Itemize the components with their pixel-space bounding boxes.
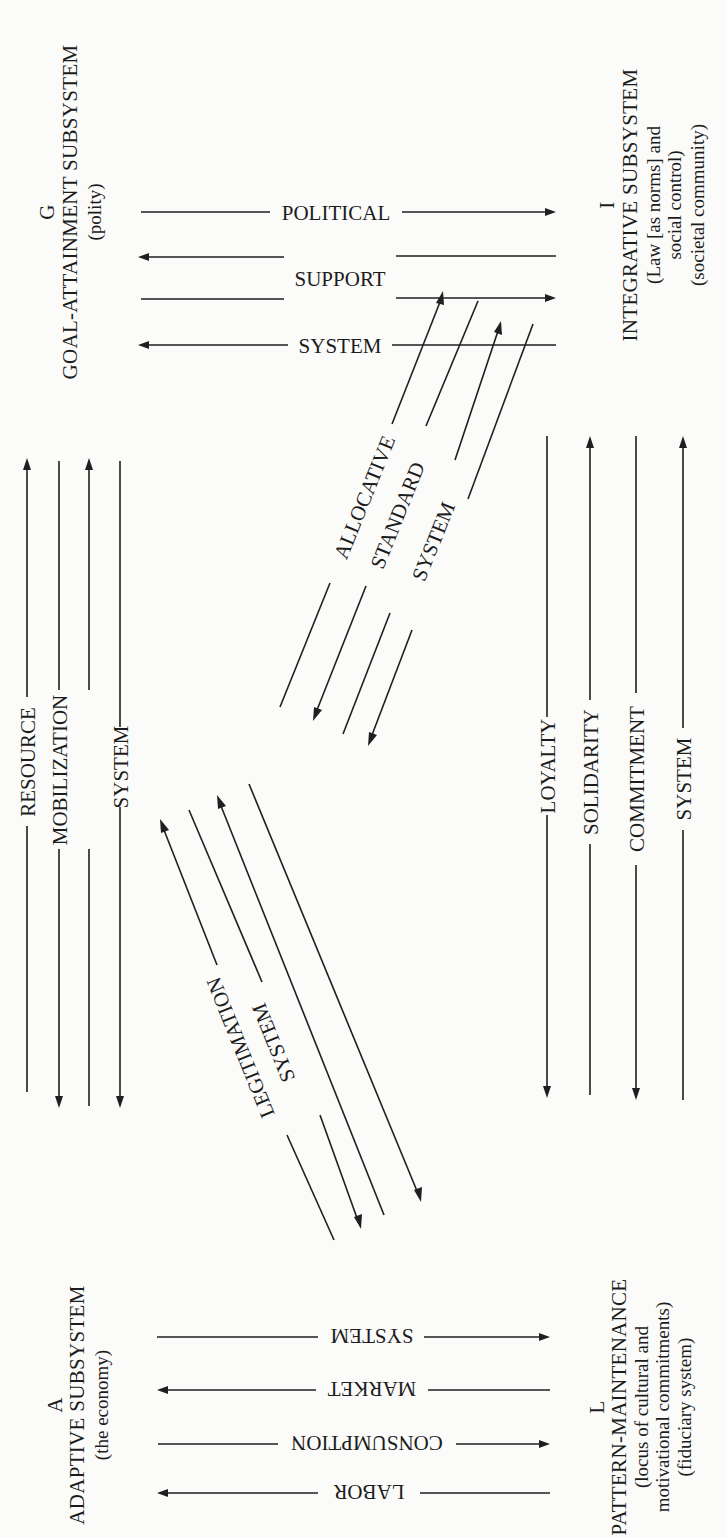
l-title: PATTERN-MAINTENANCE: [607, 1279, 631, 1536]
arrowhead-left-icon: [157, 1489, 168, 1497]
arrowhead-up-icon: [679, 436, 687, 448]
sol-system-label: SYSTEM: [672, 737, 696, 820]
arrowhead-down-left-icon: [313, 707, 322, 721]
arrowhead-up-left-icon: [217, 795, 226, 809]
arrowhead-right-icon: [545, 294, 556, 302]
arrowhead-left-icon: [157, 1386, 168, 1394]
i-line-2: social control): [664, 150, 686, 259]
interchange-line: [164, 830, 217, 965]
interchange-line: [320, 1115, 357, 1218]
l-line-3: (fiduciary system): [674, 1338, 696, 1477]
consumption-label: CONSUMPTION: [291, 1431, 443, 1455]
interchange-line: [343, 613, 390, 734]
arrowhead-right-icon: [545, 208, 556, 216]
legitimation-interchange: LEGITIMATION SYSTEM: [160, 784, 422, 1240]
support-label: SUPPORT: [295, 267, 386, 291]
arrowhead-up-left-icon: [160, 819, 169, 833]
interchange-line: [317, 586, 366, 710]
g-subtitle: (polity): [84, 184, 106, 241]
market-label: MARKET: [327, 1377, 416, 1401]
arrowhead-up-icon: [85, 458, 93, 470]
arrowhead-up-icon: [23, 458, 31, 470]
i-line-3: (societal community): [687, 124, 709, 286]
diagram-canvas: G GOAL-ATTAINMENT SUBSYSTEM (polity) I I…: [0, 0, 726, 1538]
market-interchange: SYSTEM MARKET CONSUMPTION LABOR: [157, 1324, 550, 1504]
interchange-line: [287, 1135, 334, 1240]
a-title: ADAPTIVE SUBSYSTEM: [65, 1285, 89, 1524]
arrowhead-left-icon: [138, 253, 149, 261]
a-subtitle: (the economy): [91, 1350, 113, 1460]
l-letter: L: [585, 1400, 609, 1413]
arrowhead-right-icon: [539, 1333, 550, 1341]
allocative-standard-interchange: ALLOCATIVE STANDARD SYSTEM: [280, 291, 533, 746]
subsystem-g: G GOAL-ATTAINMENT SUBSYSTEM (polity): [35, 44, 106, 379]
solidarity-label: SOLIDARITY: [579, 709, 603, 835]
mobilization-label: MOBILIZATION: [48, 695, 72, 845]
l-line-1: (locus of cultural and: [631, 1326, 653, 1488]
arrowhead-up-right-icon: [494, 321, 502, 335]
market-system-label: SYSTEM: [330, 1324, 413, 1348]
subsystem-i: I INTEGRATIVE SUBSYSTEM (Law [as norms] …: [595, 69, 709, 342]
interchange-line: [455, 331, 498, 460]
interchange-line: [249, 784, 417, 1191]
arrowhead-down-right-icon: [354, 1214, 362, 1229]
interchange-line: [189, 810, 262, 982]
interchange-line: [221, 806, 384, 1215]
arrowhead-left-icon: [138, 341, 149, 349]
interchange-line: [468, 324, 533, 499]
arrowhead-down-icon: [543, 1086, 551, 1098]
commitment-label: COMMITMENT: [625, 706, 649, 852]
g-letter: G: [35, 204, 59, 219]
a-letter: A: [43, 1397, 67, 1413]
l-line-2: motivational commitments): [652, 1302, 674, 1513]
interchange-line: [392, 302, 440, 424]
as-system-label: SYSTEM: [407, 498, 460, 584]
i-letter: I: [595, 201, 619, 208]
resource-label: RESOURCE: [16, 707, 40, 817]
i-line-1: (Law [as norms] and: [643, 126, 665, 284]
arrowhead-down-icon: [116, 1096, 124, 1108]
g-title: GOAL-ATTAINMENT SUBSYSTEM: [58, 44, 82, 379]
resource-mobilization-interchange: RESOURCE MOBILIZATION SYSTEM: [16, 458, 133, 1108]
solidarity-interchange: LOYALTY SOLIDARITY COMMITMENT SYSTEM: [536, 436, 696, 1100]
arrowhead-down-right-icon: [414, 1187, 422, 1202]
subsystem-a: A ADAPTIVE SUBSYSTEM (the economy): [43, 1285, 113, 1524]
arrowhead-down-icon: [632, 1088, 640, 1100]
loyalty-label: LOYALTY: [536, 719, 560, 814]
i-title: INTEGRATIVE SUBSYSTEM: [618, 69, 642, 342]
subsystem-l: L PATTERN-MAINTENANCE (locus of cultural…: [585, 1279, 696, 1536]
political-support-interchange: POLITICAL SUPPORT SYSTEM: [138, 201, 556, 358]
rm-system-label: SYSTEM: [109, 725, 133, 808]
labor-label: LABOR: [333, 1480, 404, 1504]
agil-interchange-diagram: G GOAL-ATTAINMENT SUBSYSTEM (polity) I I…: [0, 0, 726, 1538]
arrowhead-down-left-icon: [368, 732, 377, 746]
system-label: SYSTEM: [299, 334, 382, 358]
arrowhead-up-icon: [586, 436, 594, 448]
arrowhead-down-icon: [55, 1096, 63, 1108]
political-label: POLITICAL: [282, 201, 391, 225]
interchange-line: [280, 583, 330, 707]
arrowhead-right-icon: [539, 1440, 550, 1448]
